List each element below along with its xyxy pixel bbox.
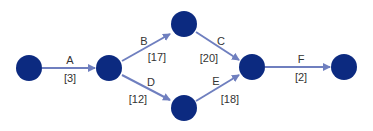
edge-e-activity: E [212, 75, 219, 87]
edge-e-duration: [18] [221, 93, 239, 105]
node-3 [171, 11, 197, 37]
edge-c-duration: [20] [200, 52, 218, 64]
edge-d-duration: [12] [129, 93, 147, 105]
edge-e: E [18] [196, 75, 239, 105]
edge-f-duration: [2] [295, 71, 307, 83]
edge-b-duration: [17] [148, 51, 166, 63]
node-1 [16, 55, 42, 81]
edge-d: D [12] [122, 75, 170, 105]
edge-b-activity: B [140, 35, 147, 47]
edge-f-activity: F [298, 53, 305, 65]
node-6 [331, 54, 357, 80]
edge-c: C [20] [196, 32, 239, 64]
edge-d-activity: D [147, 76, 155, 88]
node-2 [96, 55, 122, 81]
edge-a-activity: A [66, 54, 74, 66]
edge-a-duration: [3] [64, 72, 76, 84]
node-4 [171, 95, 197, 121]
edge-c-activity: C [217, 35, 225, 47]
node-5 [239, 54, 265, 80]
edge-b: B [17] [122, 34, 170, 63]
network-diagram: A [3] B [17] C [20] D [12] E [18] F [2] [0, 0, 373, 131]
edge-f: F [2] [265, 53, 330, 83]
edge-a: A [3] [42, 54, 95, 84]
